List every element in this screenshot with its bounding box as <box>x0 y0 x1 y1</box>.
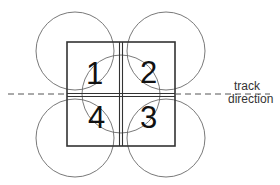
circle-bottom-right <box>127 99 205 177</box>
circle-top-right <box>127 12 205 90</box>
quadrant-label-4: 4 <box>88 100 105 135</box>
track-label-line2: direction <box>228 92 273 106</box>
track-label-line1: track <box>234 79 261 93</box>
detector-quadrant-diagram: 1 2 3 4 track direction <box>0 0 280 185</box>
quadrant-label-3: 3 <box>140 100 157 135</box>
quadrant-label-1: 1 <box>86 56 103 91</box>
quadrant-label-2: 2 <box>140 55 157 90</box>
